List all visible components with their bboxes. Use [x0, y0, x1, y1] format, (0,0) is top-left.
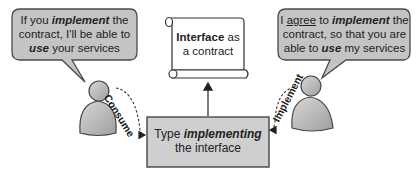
text: your services: [49, 42, 120, 54]
text: my services: [341, 42, 405, 54]
text: Type: [154, 127, 183, 141]
right-bubble-text: I agree to implement the contract, so th…: [280, 13, 409, 55]
text: a contract: [183, 45, 234, 57]
emphasis-use: use: [29, 42, 49, 54]
text: as: [224, 31, 239, 43]
interface-contract-diagram: If you implement the contract, I'll be a…: [0, 0, 420, 175]
emphasis-implementing: implementing: [184, 127, 262, 141]
underlined-agree: agree: [287, 14, 316, 26]
emphasis-implement: implement: [332, 14, 390, 26]
text: contract, I'll be able to: [19, 28, 131, 40]
text: to: [316, 14, 332, 26]
text: the: [390, 14, 409, 26]
left-bubble-text: If you implement the contract, I'll be a…: [14, 13, 135, 55]
text: the: [109, 14, 128, 26]
emphasis-use: use: [322, 42, 342, 54]
scroll-text: Interface as a contract: [172, 30, 244, 58]
interface-label: Interface: [176, 31, 224, 43]
text: contract, so that you are: [283, 28, 406, 40]
emphasis-implement: implement: [52, 14, 110, 26]
text: If you: [20, 14, 51, 26]
type-box-text: Type implementing the interface: [147, 127, 269, 155]
text: the interface: [175, 141, 241, 155]
text: able to: [284, 42, 322, 54]
